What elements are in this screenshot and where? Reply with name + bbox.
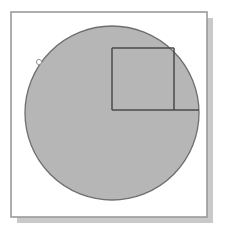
geometry-diagram [0,0,227,236]
figure-canvas [0,0,227,236]
circumference-point-marker [36,59,41,64]
